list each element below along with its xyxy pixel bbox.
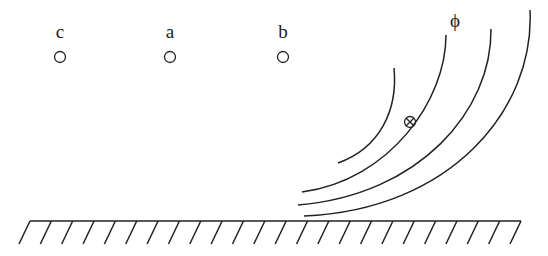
field-line-1: [338, 68, 395, 163]
ground-hatch-mark: [211, 221, 222, 244]
ground-hatch-mark: [425, 221, 436, 244]
ground-hatch-mark: [126, 221, 137, 244]
current-into-page-icon: [405, 117, 416, 128]
point-label-a: a: [166, 21, 175, 42]
point-label-b: b: [278, 21, 288, 42]
ground-hatch-mark: [275, 221, 286, 244]
ground-hatch-mark: [489, 221, 500, 244]
ground-hatch-mark: [83, 221, 94, 244]
ground-hatch-mark: [19, 221, 30, 244]
ground-hatch-mark: [510, 221, 521, 244]
ground-hatch-mark: [40, 221, 51, 244]
point-label-c: c: [56, 21, 64, 42]
ground-hatching: [19, 221, 521, 244]
ground-hatch-mark: [297, 221, 308, 244]
ground-hatch-mark: [62, 221, 73, 244]
point-b-circle-icon: [278, 52, 289, 63]
ground-hatch-mark: [254, 221, 265, 244]
ground-hatch-mark: [339, 221, 350, 244]
field-line-4: [304, 10, 530, 216]
point-a-circle-icon: [165, 52, 176, 63]
ground-hatch-mark: [168, 221, 179, 244]
field-line-2: [302, 35, 446, 192]
ground-hatch-mark: [147, 221, 158, 244]
field-line-3: [298, 29, 491, 205]
ground-hatch-mark: [232, 221, 243, 244]
ground-hatch-mark: [190, 221, 201, 244]
ground-hatch-mark: [446, 221, 457, 244]
ground-hatch-mark: [403, 221, 414, 244]
ground-hatch-mark: [467, 221, 478, 244]
phi-label: ϕ: [450, 10, 460, 31]
ground-hatch-mark: [104, 221, 115, 244]
point-c-circle-icon: [55, 52, 66, 63]
ground-hatch-mark: [361, 221, 372, 244]
diagram-canvas: c a b ϕ: [0, 0, 548, 256]
ground-hatch-mark: [318, 221, 329, 244]
ground-hatch-mark: [382, 221, 393, 244]
